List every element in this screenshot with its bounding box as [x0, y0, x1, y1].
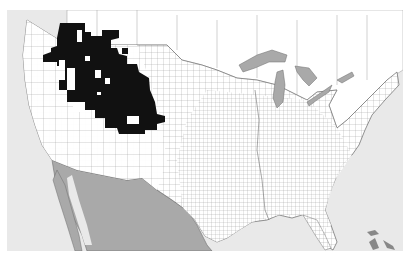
map-canvas [7, 10, 403, 251]
us-county-map [7, 10, 403, 251]
